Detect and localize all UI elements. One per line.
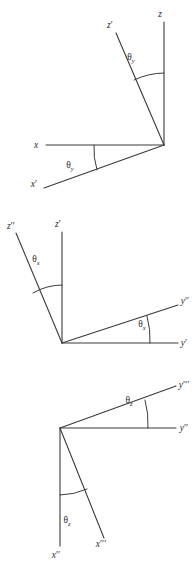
- axis-label-z: z: [157, 9, 162, 19]
- axis-label-z-double-prime: z′′: [6, 221, 15, 231]
- angle-arc-ydoubleprime-ytripleprime: [145, 400, 148, 428]
- angle-arc-yprime-ydoubleprime: [147, 316, 150, 343]
- axis-label-z-prime: z′: [106, 20, 113, 30]
- axis-label-x-triple-prime: x′′′: [95, 539, 106, 549]
- angle-label-theta-z-lower: θz: [63, 515, 71, 527]
- axis-label-y-double-prime-3: y′′: [179, 423, 188, 433]
- axis-label-z-prime-2: z′: [54, 219, 61, 229]
- angle-label-theta-y-upper: θy: [127, 52, 135, 64]
- axis-label-y-prime: y′: [180, 338, 187, 348]
- panel-rotation-z: y′′ y′′′ x′′ x′′′ θz θz: [51, 380, 189, 560]
- angle-label-theta-x-upper: θx: [32, 254, 40, 266]
- panel-rotation-x: z′ z′′ y′ y′′ θx θx: [6, 219, 189, 348]
- axis-label-y-double-prime: y′′: [180, 296, 189, 306]
- rotation-diagram-figure: z z′ x x′ θy θy z′ z′′ y′ y′′ θx θx: [0, 0, 196, 570]
- angle-arc-z-zprime: [134, 73, 164, 80]
- angle-label-theta-y-lower: θy: [66, 160, 74, 172]
- axis-line-z-prime: [116, 33, 164, 145]
- angle-label-theta-z-upper: θz: [125, 395, 133, 407]
- axis-line-z-double-prime: [16, 233, 62, 343]
- axis-label-x: x: [33, 140, 39, 150]
- axis-label-x-prime: x′: [30, 179, 37, 189]
- panel-rotation-y: z z′ x x′ θy θy: [30, 9, 164, 189]
- angle-arc-zprime-zdoubleprime: [33, 285, 62, 293]
- axis-line-y-triple-prime: [60, 386, 176, 428]
- axis-label-x-double-prime: x′′: [51, 550, 60, 560]
- axis-line-y-double-prime: [62, 305, 178, 343]
- angle-label-theta-x-lower: θx: [138, 319, 146, 331]
- axis-line-x-prime: [44, 145, 164, 188]
- axis-label-y-triple-prime: y′′′: [178, 380, 189, 390]
- angle-arc-xdoubleprime-xtripleprime: [60, 489, 87, 495]
- diagram-canvas: z z′ x x′ θy θy z′ z′′ y′ y′′ θx θx: [0, 0, 196, 570]
- angle-arc-x-xprime: [94, 145, 97, 170]
